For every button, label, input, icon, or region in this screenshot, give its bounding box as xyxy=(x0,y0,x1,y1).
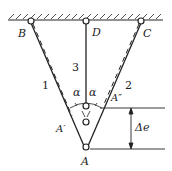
label-A-prime: A′ xyxy=(56,124,66,134)
pin-A1 xyxy=(83,119,89,125)
pin-A xyxy=(83,144,89,150)
label-angle-left: α xyxy=(73,87,80,98)
pin-C xyxy=(138,18,144,24)
label-bar-1: 1 xyxy=(42,80,49,91)
label-B: B xyxy=(18,28,26,39)
pin-D xyxy=(83,18,89,24)
label-A-double-prime: A″ xyxy=(111,93,122,103)
label-A: A xyxy=(81,156,89,167)
label-D: D xyxy=(92,27,101,38)
label-bar-3: 3 xyxy=(72,62,79,73)
label-bar-2: 2 xyxy=(125,80,132,91)
label-delta-e: Δe xyxy=(135,122,149,133)
label-C: C xyxy=(143,28,151,39)
truss-diagram: B D C 3 1 2 α α A″ A′ Δe A xyxy=(0,0,172,171)
pin-B xyxy=(28,18,34,24)
bar-2 xyxy=(88,23,141,146)
diagram-graphics xyxy=(0,0,172,171)
pin-A2 xyxy=(83,103,89,109)
label-angle-right: α xyxy=(89,87,96,98)
